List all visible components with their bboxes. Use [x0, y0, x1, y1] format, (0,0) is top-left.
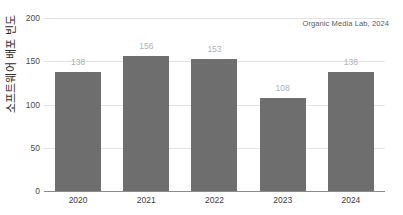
- y-tick-label: 150: [10, 57, 40, 66]
- y-tick-label: 100: [10, 100, 40, 109]
- bar-group-2022[interactable]: 153: [180, 18, 248, 191]
- bar-group-2020[interactable]: 138: [44, 18, 112, 191]
- bar-value-label: 138: [344, 58, 358, 67]
- y-tick-label: 50: [10, 144, 40, 153]
- bar-group-2021[interactable]: 156: [112, 18, 180, 191]
- x-tick-label-2022: 2022: [205, 196, 224, 205]
- plot-area: 138 156 153 108 138: [44, 18, 385, 191]
- bars-layer: 138 156 153 108 138: [44, 18, 385, 191]
- bar-value-label: 138: [71, 58, 85, 67]
- bar-2021[interactable]: [123, 56, 169, 191]
- bar-value-label: 108: [276, 84, 290, 93]
- bar-2022[interactable]: [191, 59, 237, 191]
- bar-value-label: 153: [207, 45, 221, 54]
- bar-group-2024[interactable]: 138: [317, 18, 385, 191]
- y-tick-label: 200: [10, 14, 40, 23]
- x-tick-label-2021: 2021: [137, 196, 156, 205]
- x-axis-tick-labels: 2020 2021 2022 2023 2024: [44, 193, 385, 211]
- y-axis-tick-labels: 200 150 100 50 0: [8, 18, 40, 191]
- bar-2024[interactable]: [328, 72, 374, 191]
- x-tick-label-2024: 2024: [341, 196, 360, 205]
- axis-line-zero: [44, 191, 385, 192]
- bar-value-label: 156: [139, 42, 153, 51]
- bar-group-2023[interactable]: 108: [249, 18, 317, 191]
- source-credit: Organic Media Lab, 2024: [302, 19, 389, 28]
- x-tick-label-2020: 2020: [69, 196, 88, 205]
- bar-chart: 소프트웨어 배포 빈도 200 150 100 50 0 138 156 153: [0, 0, 403, 215]
- x-tick-label-2023: 2023: [273, 196, 292, 205]
- bar-2023[interactable]: [260, 98, 306, 191]
- y-tick-label: 0: [10, 187, 40, 196]
- bar-2020[interactable]: [55, 72, 101, 191]
